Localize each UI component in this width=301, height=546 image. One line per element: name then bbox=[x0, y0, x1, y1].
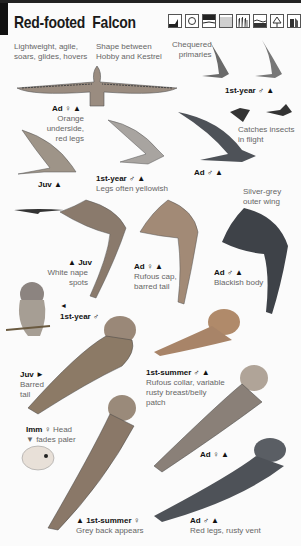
farmland-icon bbox=[219, 14, 233, 28]
label-juvenile-underwing: ▲ Juv bbox=[68, 258, 92, 267]
marsh-icon bbox=[202, 14, 216, 28]
label-adult-male-flight: Ad ♂ ▲ bbox=[194, 168, 223, 177]
adult-male-underwing-illustration bbox=[218, 206, 298, 318]
reedbed-icon bbox=[236, 14, 250, 28]
immature-female-note: ▼ fades paler bbox=[26, 435, 76, 445]
woodland-icon bbox=[270, 14, 284, 28]
adult-male-perched-note: Red legs, rusty vent bbox=[190, 526, 261, 536]
juvenile-perched-note: Barred tail bbox=[20, 380, 44, 400]
label-first-year-male-perched: 1st-year ♂ bbox=[60, 312, 99, 321]
label-first-summer-female: ▲ 1st-summer ♀ bbox=[76, 516, 140, 525]
label-adult-female-perched: Ad ♀ ▲ bbox=[200, 450, 229, 459]
first-year-male-flight-illustration bbox=[98, 118, 168, 170]
label-adult-male-perched: Ad ♂ ▲ bbox=[190, 516, 219, 525]
urban-icon bbox=[287, 14, 301, 28]
immature-female-perched-illustration bbox=[44, 392, 144, 532]
first-summer-female-note: Grey back appears bbox=[76, 526, 144, 536]
label-adult-female-underwing: Ad ♀ ▲ bbox=[134, 262, 163, 271]
primaries-note: Chequered primaries bbox=[172, 40, 212, 60]
label-juvenile-flight: Juv ▲ bbox=[38, 180, 62, 189]
arrow-left-icon: ◄ bbox=[60, 302, 67, 309]
silver-grey-note: Silver-grey outer wing bbox=[243, 187, 281, 207]
scrub-icon bbox=[185, 14, 199, 28]
adult-female-underwing-note: Rufous cap, barred tail bbox=[134, 272, 177, 292]
label-adult-male-underwing: Ad ♂ ▲ bbox=[214, 268, 243, 277]
label-adult-female-top: Ad ♀ ▲ bbox=[52, 104, 81, 113]
adult-male-underwing-note: Blackish body bbox=[214, 278, 263, 288]
flight-note: Lightweight, agile, soars, glides, hover… bbox=[14, 42, 87, 62]
habitat-icons bbox=[168, 14, 301, 28]
coast-icon bbox=[168, 14, 182, 28]
label-immature-female: Imm ♀ Head bbox=[26, 425, 72, 435]
first-summer-male-note: Rufous collar, variable rusty breast/bel… bbox=[146, 378, 225, 408]
first-year-male-flight-note: Legs often yellowish bbox=[96, 184, 168, 194]
adult-female-top-note: Orange underside, red legs bbox=[20, 114, 84, 144]
adult-female-perched-illustration bbox=[150, 306, 245, 360]
species-title: Red-footed Falcon bbox=[14, 13, 136, 33]
section-tab bbox=[0, 3, 8, 35]
label-first-year-male-flight: 1st-year ♂ ▲ bbox=[96, 174, 145, 183]
adult-female-upperwing-illustration bbox=[12, 62, 182, 110]
label-first-year-male-top: 1st-year ♂ ▲ bbox=[225, 86, 274, 95]
water-icon bbox=[253, 14, 267, 28]
catches-insects-note: Catches insects in flight bbox=[238, 125, 294, 145]
shape-note: Shape between Hobby and Kestrel bbox=[96, 42, 162, 62]
page-top-rule bbox=[0, 0, 301, 3]
label-juvenile-perched: Juv ► bbox=[20, 370, 44, 379]
label-first-summer-male: 1st-summer ♂ ▲ bbox=[146, 368, 210, 377]
juvenile-underwing-note: White nape spots bbox=[46, 268, 88, 288]
